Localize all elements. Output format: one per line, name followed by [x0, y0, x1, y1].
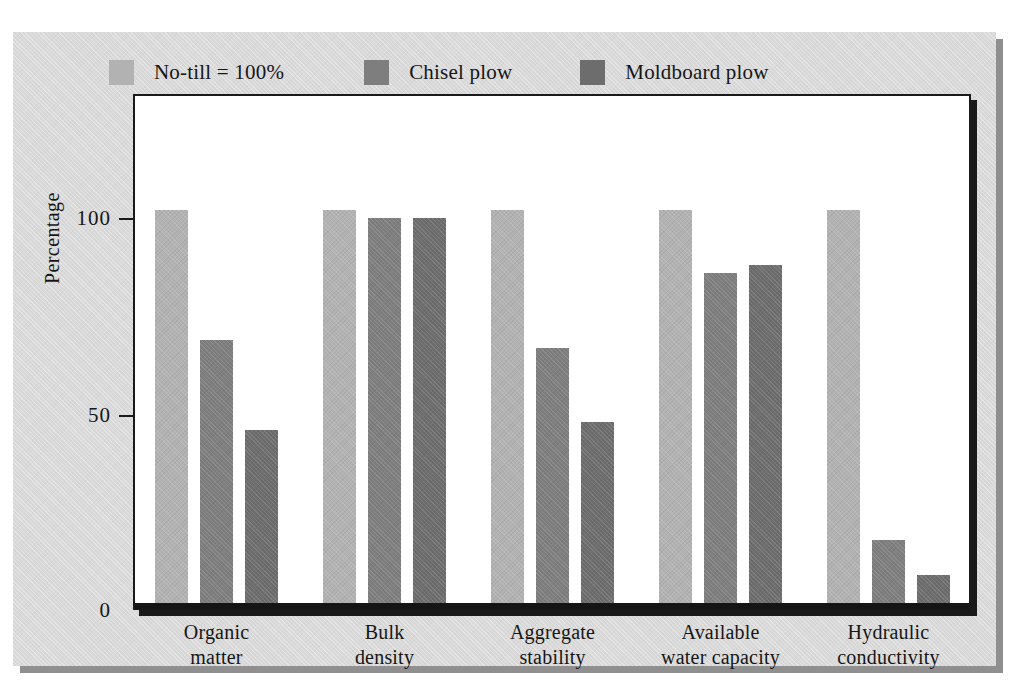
- y-tick-100: 100: [25, 206, 111, 231]
- legend-label-moldboard-plow: Moldboard plow: [625, 60, 768, 85]
- bar-1-0: [323, 210, 356, 603]
- legend-label-no-till: No-till = 100%: [154, 60, 284, 85]
- x-axis-baseline: [135, 603, 969, 610]
- bar-4-1: [872, 540, 905, 603]
- bar-1-1: [368, 218, 401, 603]
- legend-item-moldboard-plow[interactable]: Moldboard plow: [580, 60, 768, 85]
- x-category-label-4: Hydraulicconductivity: [789, 620, 989, 670]
- y-tick-label-100: 100: [77, 206, 112, 230]
- legend-label-chisel-plow: Chisel plow: [409, 60, 512, 85]
- y-tick-mark-50: [119, 415, 133, 417]
- bar-2-0: [491, 210, 524, 603]
- x-axis-category-labels: OrganicmatterBulkdensityAggregatestabili…: [133, 620, 971, 680]
- bars-plot-area: [135, 96, 969, 610]
- bar-4-0: [827, 210, 860, 603]
- legend-item-chisel-plow[interactable]: Chisel plow: [364, 60, 512, 85]
- legend-swatch-no-till: [109, 60, 134, 85]
- y-tick-mark-100: [119, 218, 133, 220]
- bar-0-2: [245, 430, 278, 603]
- figure-panel: No-till = 100% Chisel plow Moldboard plo…: [13, 32, 996, 666]
- legend-swatch-chisel-plow: [364, 60, 389, 85]
- bar-2-1: [536, 348, 569, 603]
- y-tick-label-50: 50: [88, 403, 111, 427]
- y-tick-0: 0: [25, 598, 111, 623]
- bar-3-0: [659, 210, 692, 603]
- bar-4-2: [917, 575, 950, 603]
- bar-2-2: [581, 422, 614, 603]
- bar-3-1: [704, 273, 737, 603]
- y-tick-50: 50: [25, 403, 111, 428]
- x-category-label-4-line2: conductivity: [789, 645, 989, 670]
- bar-0-1: [200, 340, 233, 603]
- bar-1-2: [413, 218, 446, 603]
- bar-3-2: [749, 265, 782, 603]
- chart-legend: No-till = 100% Chisel plow Moldboard plo…: [109, 60, 769, 85]
- legend-item-no-till[interactable]: No-till = 100%: [109, 60, 284, 85]
- legend-swatch-moldboard-plow: [580, 60, 605, 85]
- x-category-label-4-line1: Hydraulic: [789, 620, 989, 645]
- figure-root: No-till = 100% Chisel plow Moldboard plo…: [0, 0, 1016, 691]
- y-tick-label-0: 0: [100, 598, 112, 622]
- bar-0-0: [155, 210, 188, 603]
